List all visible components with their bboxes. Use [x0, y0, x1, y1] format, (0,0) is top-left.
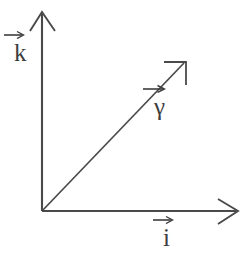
axis-label-i-text: i [163, 225, 170, 250]
axis-label-i: i [163, 215, 170, 250]
vector-diagram-figure: k γ i [0, 0, 249, 254]
vector-overbar-i-icon [163, 215, 170, 224]
axis-label-k: k [14, 30, 27, 65]
vector-overbar-gamma-icon [154, 84, 165, 93]
axes-drawing [0, 0, 249, 254]
axis-label-k-text: k [14, 40, 27, 65]
axis-label-gamma-text: γ [154, 94, 165, 119]
vector-overbar-k-icon [14, 30, 27, 39]
axis-label-gamma: γ [154, 84, 165, 119]
